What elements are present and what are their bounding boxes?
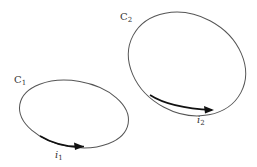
two-loops-diagram: C1 i1 C2 i2 [0,0,257,167]
loop-c2-current-segment [150,95,212,110]
current-i1-label: i1 [55,149,63,162]
loop-c1-curve [14,72,134,156]
loop-c2: C2 i2 [110,0,257,136]
loop-c1: C1 i1 [14,72,134,162]
arrow-icon [204,106,214,114]
loop-c1-label: C1 [14,74,26,87]
loop-c2-curve [110,0,257,136]
loop-c2-label: C2 [120,11,132,24]
